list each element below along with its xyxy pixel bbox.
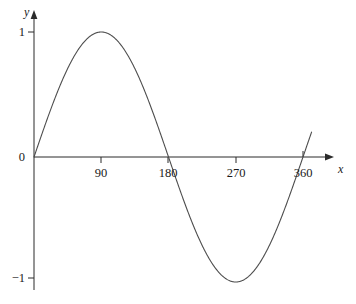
- x-axis-label: x: [338, 163, 343, 175]
- x-axis-arrow-icon: [325, 154, 334, 161]
- x-tick-label-270: 270: [227, 167, 246, 180]
- y-axis-tick-marks: [28, 32, 34, 278]
- x-tick-label-180: 180: [159, 167, 178, 180]
- x-tick-label-360: 360: [294, 167, 313, 180]
- plot-canvas: [0, 0, 356, 304]
- sine-graph-figure: y x 1 0 −1 90 180 270 360: [0, 0, 356, 304]
- y-tick-label-1: 1: [14, 26, 25, 39]
- y-tick-label-neg1: −1: [7, 272, 25, 285]
- y-axis-arrow-icon: [31, 10, 38, 19]
- y-tick-label-0: 0: [14, 151, 25, 164]
- x-tick-label-90: 90: [95, 167, 108, 180]
- y-axis-label: y: [24, 6, 29, 18]
